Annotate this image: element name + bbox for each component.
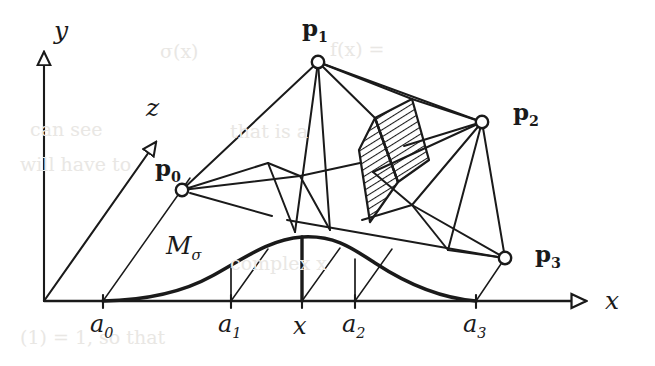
x-axis-label: x — [605, 288, 619, 313]
z-axis-label: z — [146, 95, 159, 120]
rib-p1-d — [318, 62, 412, 99]
tick-label-x: x — [293, 314, 307, 342]
tick-label-a1-base: a — [218, 310, 232, 338]
point-label-p1-sub: 1 — [318, 29, 328, 45]
figure-root: f(x) = σ(x) can see will have to that is… — [0, 0, 655, 366]
ghost-text: complex x — [230, 252, 327, 274]
tick-label-a3: a3 — [463, 312, 486, 340]
ghost-text: f(x) = — [330, 38, 385, 60]
tick-label-a2-base: a — [342, 310, 356, 338]
rib-p1-b — [318, 62, 330, 230]
rib-p2-a — [412, 99, 482, 122]
edge-p0-p3-seg1 — [190, 193, 272, 216]
rib-p0-b — [182, 176, 300, 190]
ghost-text: that is a — [230, 120, 308, 142]
panel-edge-b — [300, 176, 330, 230]
point-label-p0: p0 — [155, 156, 181, 184]
projection-lines-group — [103, 178, 505, 301]
tick-label-a1: a1 — [218, 312, 241, 340]
hatched-slab-group — [359, 99, 429, 222]
y-axis-label: y — [54, 18, 68, 43]
control-mesh-group — [182, 62, 505, 258]
tick-label-a1-sub: 1 — [232, 325, 241, 341]
point-label-p2-base: p — [513, 98, 529, 125]
depth-line-a2 — [355, 249, 392, 301]
tick-label-a3-sub: 3 — [477, 325, 486, 341]
tick-label-a2: a2 — [342, 312, 365, 340]
ghost-text: σ(x) — [160, 40, 199, 62]
point-label-p0-sub: 0 — [171, 169, 181, 185]
ridge-mid — [300, 163, 360, 176]
point-label-p2: p2 — [513, 100, 539, 128]
point-label-p0-base: p — [155, 154, 171, 181]
rib-p1-a — [295, 62, 318, 232]
point-marker-p0[interactable] — [176, 184, 188, 196]
tick-label-a0: a0 — [90, 312, 113, 340]
m-sigma-label-sub: σ — [192, 247, 202, 263]
point-marker-p2[interactable] — [476, 116, 488, 128]
edge-p2-p3 — [482, 122, 505, 258]
tick-label-x-base: x — [293, 312, 307, 340]
point-label-p3-base: p — [535, 240, 551, 267]
ghost-text: can see — [30, 118, 102, 140]
rib-p1-c — [318, 62, 375, 118]
m-sigma-label-base: M — [166, 231, 192, 260]
point-label-p1-base: p — [302, 14, 318, 41]
tick-label-a2-sub: 2 — [356, 325, 365, 341]
m-sigma-label: Mσ — [166, 233, 202, 263]
point-label-p2-sub: 2 — [529, 113, 539, 129]
point-label-p3: p3 — [535, 242, 561, 270]
point-label-p1: p1 — [302, 16, 328, 44]
ghost-text: will have to — [20, 153, 131, 175]
depth-line-a3 — [476, 258, 505, 301]
tick-label-a0-base: a — [90, 310, 104, 338]
point-marker-p3[interactable] — [499, 252, 511, 264]
tick-label-a3-base: a — [463, 310, 477, 338]
point-label-p3-sub: 3 — [551, 255, 561, 271]
point-marker-p1[interactable] — [312, 56, 324, 68]
tick-label-a0-sub: 0 — [104, 325, 113, 341]
